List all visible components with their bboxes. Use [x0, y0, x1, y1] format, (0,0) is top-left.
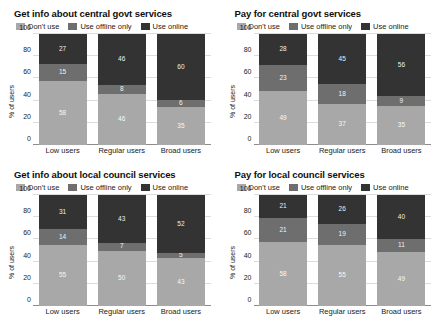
y-axis-label: % of users — [227, 34, 237, 157]
bar-column: 46846 — [98, 34, 146, 145]
bar-value-label: 43 — [118, 216, 125, 223]
bar-segment-dont_use: 35 — [157, 107, 205, 145]
y-tick: 40 — [244, 90, 252, 97]
chart-title: Pay for central govt services — [235, 8, 436, 19]
bar-group: 212158261955401149 — [254, 195, 432, 306]
legend-item-use_online: Use online — [141, 22, 188, 31]
bar-value-label: 55 — [339, 272, 346, 279]
bar-column: 401149 — [377, 195, 425, 306]
bar-segment-dont_use: 46 — [98, 94, 146, 145]
bar-segment-dont_use: 35 — [377, 106, 425, 145]
legend-label-use_offline_only: Use offline only — [80, 22, 131, 31]
bar-segment-dont_use: 37 — [318, 104, 366, 145]
bar-value-label: 18 — [339, 91, 346, 98]
chart-legend: Don't useUse offline onlyUse online — [237, 22, 436, 31]
y-tick: 80 — [23, 46, 31, 53]
y-axis-label: % of users — [227, 195, 237, 318]
y-tick: 100 — [19, 185, 31, 192]
bar-value-label: 60 — [177, 64, 184, 71]
bar-column: 212158 — [259, 195, 307, 306]
bar-group: 3114554375052543 — [33, 195, 211, 306]
bar-value-label: 46 — [118, 116, 125, 123]
x-axis-labels: Low usersRegular usersBroad users — [254, 145, 432, 157]
bar-value-label: 46 — [118, 56, 125, 63]
bar-segment-use_online: 21 — [259, 195, 307, 218]
plot-wrapper: % of users0204060801003114554375052543Lo… — [6, 195, 215, 318]
legend-label-dont_use: Don't use — [28, 183, 59, 192]
bar-value-label: 45 — [339, 56, 346, 63]
bar-value-label: 15 — [59, 69, 66, 76]
bar-segment-dont_use: 43 — [157, 258, 205, 306]
chart-legend: Don't useUse offline onlyUse online — [237, 183, 436, 192]
bar-value-label: 27 — [59, 46, 66, 53]
legend-swatch-use_online — [361, 184, 370, 191]
chart-panel-3: Get info about local council servicesDon… — [0, 161, 221, 322]
bar-value-label: 40 — [398, 214, 405, 221]
bar-value-label: 35 — [398, 122, 405, 129]
bar-value-label: 55 — [59, 272, 66, 279]
bar-column: 261955 — [318, 195, 366, 306]
bar-value-label: 11 — [398, 242, 405, 249]
bar-segment-dont_use: 58 — [259, 242, 307, 306]
bar-value-label: 49 — [398, 276, 405, 283]
legend-swatch-use_offline_only — [289, 23, 298, 30]
x-tick-label: Broad users — [152, 306, 211, 316]
y-axis-label: % of users — [6, 34, 16, 157]
legend-item-use_online: Use online — [141, 183, 188, 192]
y-tick: 80 — [244, 207, 252, 214]
y-tick: 20 — [244, 112, 252, 119]
bar-value-label: 37 — [339, 121, 346, 128]
y-tick: 20 — [23, 112, 31, 119]
chart-title: Get info about central govt services — [14, 8, 215, 19]
bar-segment-use_offline_only: 9 — [377, 96, 425, 106]
bar-segment-use_offline_only: 19 — [318, 224, 366, 245]
bar-segment-dont_use: 49 — [377, 252, 425, 306]
legend-swatch-use_online — [141, 23, 150, 30]
y-axis: 020406080100 — [237, 195, 254, 318]
bar-column: 43750 — [98, 195, 146, 306]
bar-segment-use_offline_only: 21 — [259, 218, 307, 241]
x-tick-label: Regular users — [92, 145, 151, 155]
legend-label-dont_use: Don't use — [249, 183, 280, 192]
bar-segment-use_online: 52 — [157, 195, 205, 253]
bar-segment-use_offline_only: 14 — [39, 229, 87, 245]
y-tick: 20 — [244, 273, 252, 280]
x-tick-label: Low users — [254, 145, 313, 155]
legend-label-use_offline_only: Use offline only — [301, 22, 352, 31]
bar-value-label: 58 — [279, 271, 286, 278]
y-tick: 20 — [23, 273, 31, 280]
chart-panel-1: Get info about central govt servicesDon'… — [0, 0, 221, 161]
legend-item-use_offline_only: Use offline only — [68, 22, 131, 31]
chart-grid: Get info about central govt servicesDon'… — [0, 0, 441, 322]
y-axis: 020406080100 — [16, 34, 33, 157]
bar-segment-use_online: 28 — [259, 34, 307, 65]
y-tick: 0 — [248, 135, 252, 142]
y-tick: 0 — [27, 135, 31, 142]
bar-column: 311455 — [39, 195, 87, 306]
bar-column: 282349 — [259, 34, 307, 145]
bar-segment-use_online: 31 — [39, 195, 87, 229]
legend-swatch-use_offline_only — [289, 184, 298, 191]
bar-segment-use_offline_only: 18 — [318, 84, 366, 104]
y-tick: 40 — [244, 251, 252, 258]
legend-swatch-use_offline_only — [68, 184, 77, 191]
bar-segment-use_online: 26 — [318, 195, 366, 224]
legend-label-use_offline_only: Use offline only — [301, 183, 352, 192]
plot-area: 212158261955401149Low usersRegular users… — [254, 195, 432, 318]
bar-column: 271558 — [39, 34, 87, 145]
x-tick-label: Low users — [254, 306, 313, 316]
y-tick: 80 — [244, 46, 252, 53]
bar-segment-dont_use: 49 — [259, 91, 307, 145]
legend-label-use_online: Use online — [153, 183, 188, 192]
bar-segment-dont_use: 55 — [39, 245, 87, 306]
plot-area: 2715584684660635Low usersRegular usersBr… — [33, 34, 211, 157]
y-tick: 60 — [244, 229, 252, 236]
bar-value-label: 28 — [279, 46, 286, 53]
x-axis-labels: Low usersRegular usersBroad users — [33, 306, 211, 318]
x-axis-labels: Low usersRegular usersBroad users — [33, 145, 211, 157]
y-tick: 100 — [240, 185, 252, 192]
bar-segment-use_offline_only: 7 — [98, 243, 146, 251]
legend-label-dont_use: Don't use — [249, 22, 280, 31]
bar-value-label: 9 — [400, 98, 404, 105]
bar-segment-dont_use: 58 — [39, 81, 87, 145]
